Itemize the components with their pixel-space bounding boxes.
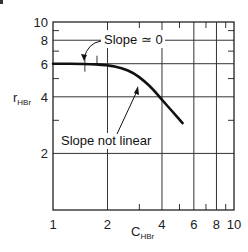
- scan-mark: [0, 0, 3, 4]
- arrow-icon: [117, 91, 137, 134]
- plot-frame: [53, 22, 234, 210]
- annotation-slope-not-linear: Slope not linear: [60, 86, 152, 149]
- x-tick-label: 8: [213, 217, 220, 232]
- annotation-slope-zero: Slope ≃ 0: [81, 30, 165, 61]
- log-log-chart: 246810 1246810 rHBr CHBr Slope ≃ 0 Slope…: [0, 0, 248, 252]
- x-tick-label: 6: [190, 217, 197, 232]
- data-curve: [53, 64, 183, 123]
- x-tick-label: 2: [104, 217, 111, 232]
- x-tick-label: 10: [227, 217, 241, 232]
- y-tick-label: 10: [34, 15, 48, 30]
- y-tick-label: 2: [41, 146, 48, 161]
- y-tick-label: 6: [41, 57, 48, 72]
- grid-lines: [53, 22, 234, 210]
- y-axis-label: rHBr: [13, 90, 31, 107]
- x-tick-label: 1: [49, 217, 56, 232]
- x-tick-labels: 1246810: [49, 217, 241, 232]
- y-tick-labels: 246810: [34, 15, 48, 161]
- arrowhead-icon: [134, 86, 139, 95]
- annotation-slope-zero-text: Slope ≃ 0: [104, 32, 163, 47]
- y-tick-label: 8: [41, 33, 48, 48]
- y-tick-label: 4: [41, 90, 48, 105]
- arrowhead-icon: [81, 54, 87, 61]
- annotation-slope-not-linear-text: Slope not linear: [61, 133, 152, 148]
- minor-ticks: [53, 22, 234, 210]
- x-tick-label: 4: [158, 217, 165, 232]
- x-axis-label: CHBr: [131, 224, 155, 241]
